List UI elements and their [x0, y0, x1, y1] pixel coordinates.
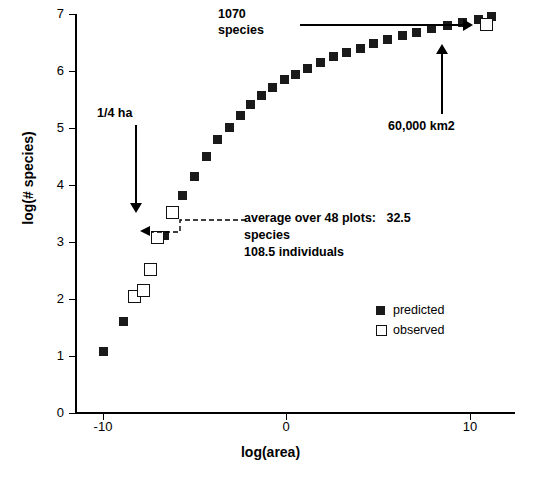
x-tick-label-10: 10	[450, 420, 490, 433]
data-point-predicted	[303, 64, 312, 73]
arrow-1070-head	[463, 19, 473, 31]
data-point-predicted	[280, 75, 289, 84]
arrow-quarter-ha-shaft	[135, 125, 137, 205]
annotation-60000-km2: 60,000 km2	[388, 118, 455, 134]
x-tick-label-0: 0	[266, 420, 306, 433]
arrow-60000-shaft	[441, 52, 443, 114]
data-point-observed	[144, 263, 157, 276]
y-axis-title: log(# species)	[20, 58, 36, 298]
filled-square-icon	[376, 306, 385, 315]
chart-legend: predicted observed	[376, 300, 444, 340]
annotation-1070-line2: species	[218, 22, 264, 38]
annotation-average-line3: 108.5 individuals	[244, 244, 344, 260]
x-axis-title: log(area)	[0, 444, 541, 460]
annotation-average-leader	[140, 216, 248, 240]
arrow-1070-shaft	[300, 24, 465, 26]
y-tick-label-2: 2	[40, 292, 64, 305]
data-point-observed	[480, 18, 493, 31]
legend-item-observed: observed	[376, 320, 444, 340]
data-point-predicted	[190, 172, 199, 181]
arrow-60000-head	[436, 44, 448, 54]
x-tick-label--10: -10	[83, 420, 123, 433]
annotation-average-arrow-head	[140, 226, 150, 236]
data-point-predicted	[412, 28, 421, 37]
species-area-chart: 7 6 5 4 3 2 1 0 -10 0 10 log(area) log(#…	[0, 0, 541, 479]
y-tick-label-5: 5	[40, 121, 64, 134]
data-point-predicted	[236, 111, 245, 120]
data-point-predicted	[99, 347, 108, 356]
annotation-1070-line1: 1070	[218, 6, 246, 22]
data-point-predicted	[202, 152, 211, 161]
legend-label-observed: observed	[393, 323, 444, 337]
data-point-predicted	[291, 70, 300, 79]
data-point-predicted	[329, 52, 338, 61]
data-point-observed	[137, 284, 150, 297]
data-point-predicted	[246, 100, 255, 109]
data-point-predicted	[213, 135, 222, 144]
annotation-quarter-ha: 1/4 ha	[97, 105, 132, 121]
data-point-predicted	[398, 31, 407, 40]
arrow-quarter-ha-head	[130, 203, 142, 213]
annotation-average-line1: average over 48 plots: 32.5	[244, 210, 411, 226]
data-point-predicted	[225, 123, 234, 132]
data-point-predicted	[119, 317, 128, 326]
y-tick-label-7: 7	[40, 7, 64, 20]
y-tick-label-0: 0	[40, 406, 64, 419]
data-point-predicted	[369, 39, 378, 48]
y-tick-label-6: 6	[40, 64, 64, 77]
open-square-icon	[376, 325, 387, 336]
y-tick-label-3: 3	[40, 235, 64, 248]
data-point-predicted	[342, 48, 351, 57]
data-point-predicted	[268, 83, 277, 92]
data-point-predicted	[316, 58, 325, 67]
y-tick-label-4: 4	[40, 178, 64, 191]
legend-label-predicted: predicted	[393, 303, 444, 317]
data-point-predicted	[356, 44, 365, 53]
y-tick-label-1: 1	[40, 349, 64, 362]
data-point-predicted	[383, 35, 392, 44]
annotation-average-line2: species	[244, 227, 290, 243]
legend-item-predicted: predicted	[376, 300, 444, 320]
data-point-predicted	[178, 191, 187, 200]
data-point-predicted	[257, 91, 266, 100]
